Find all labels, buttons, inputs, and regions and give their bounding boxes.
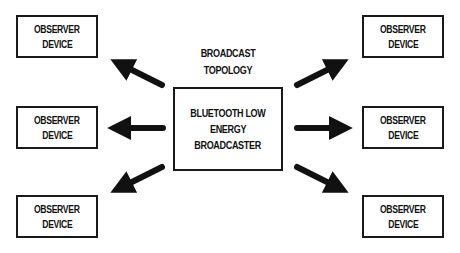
arrow-to-top-right <box>297 64 339 85</box>
observer-label-line-2: DEVICE <box>388 128 418 143</box>
observer-device-bottom-right: OBSERVER DEVICE <box>362 195 444 238</box>
observer-device-middle-left: OBSERVER DEVICE <box>16 106 98 149</box>
observer-label-line-2: DEVICE <box>388 37 418 52</box>
broadcast-topology-diagram: BROADCAST TOPOLOGY BLUETOOTH LOW ENERGY … <box>0 0 460 253</box>
observer-label-line-2: DEVICE <box>42 128 72 143</box>
observer-label-line-2: DEVICE <box>42 37 72 52</box>
observer-label-line-1: OBSERVER <box>34 113 80 128</box>
observer-label-line-1: OBSERVER <box>380 22 426 37</box>
broadcaster-box: BLUETOOTH LOW ENERGY BROADCASTER <box>173 87 283 171</box>
broadcaster-line-2: ENERGY <box>210 121 246 137</box>
observer-device-middle-right: OBSERVER DEVICE <box>362 106 444 149</box>
diagram-title: BROADCAST TOPOLOGY <box>173 45 283 79</box>
observer-device-bottom-left: OBSERVER DEVICE <box>16 195 98 238</box>
observer-device-top-left: OBSERVER DEVICE <box>16 15 98 58</box>
arrow-to-top-left <box>120 64 162 85</box>
observer-label-line-1: OBSERVER <box>34 22 80 37</box>
title-line-1: BROADCAST <box>183 45 273 62</box>
observer-label-line-1: OBSERVER <box>34 202 80 217</box>
broadcaster-line-1: BLUETOOTH LOW <box>190 105 265 121</box>
observer-device-top-right: OBSERVER DEVICE <box>362 15 444 58</box>
observer-label-line-2: DEVICE <box>388 217 418 232</box>
arrow-to-bottom-left <box>120 167 162 188</box>
title-line-2: TOPOLOGY <box>183 62 273 79</box>
broadcaster-line-3: BROADCASTER <box>195 137 262 153</box>
arrow-to-bottom-right <box>297 167 339 188</box>
observer-label-line-1: OBSERVER <box>380 113 426 128</box>
observer-label-line-2: DEVICE <box>42 217 72 232</box>
observer-label-line-1: OBSERVER <box>380 202 426 217</box>
